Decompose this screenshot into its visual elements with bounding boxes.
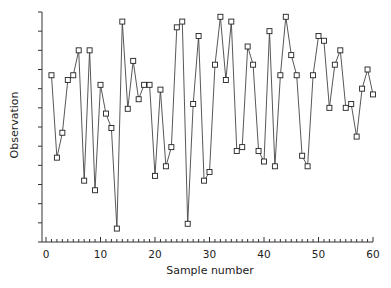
data-point-marker [354, 134, 359, 139]
data-point-marker [65, 78, 70, 83]
data-point-marker [234, 148, 239, 153]
data-point-marker [93, 188, 98, 193]
x-tick-label: 10 [94, 248, 107, 260]
data-point-marker [343, 105, 348, 110]
data-point-marker [300, 153, 305, 158]
chart: 0102030405060 Sample number Observation [0, 0, 391, 288]
data-point-marker [212, 62, 217, 67]
data-point-marker [294, 73, 299, 78]
x-tick-label: 60 [366, 248, 379, 260]
data-point-marker [272, 164, 277, 169]
data-point-marker [332, 62, 337, 67]
data-point-marker [349, 102, 354, 107]
data-point-marker [109, 125, 114, 130]
data-point-marker [120, 19, 125, 24]
data-point-marker [256, 148, 261, 153]
data-point-marker [223, 78, 228, 83]
data-point-marker [191, 102, 196, 107]
data-point-marker [169, 145, 174, 150]
data-point-marker [103, 111, 108, 116]
data-point-marker [262, 159, 267, 164]
data-point-marker [49, 73, 54, 78]
data-point-marker [142, 82, 147, 87]
data-point-marker [251, 62, 256, 67]
data-point-marker [360, 86, 365, 91]
x-tick-label: 20 [148, 248, 161, 260]
plot-area [49, 14, 376, 231]
data-point-marker [229, 19, 234, 24]
data-point-marker [147, 82, 152, 87]
data-point-marker [136, 97, 141, 102]
data-point-marker [60, 130, 65, 135]
data-point-marker [289, 53, 294, 58]
data-point-marker [305, 164, 310, 169]
data-point-marker [240, 145, 245, 150]
y-axis-title: Observation [8, 91, 21, 158]
data-point-marker [54, 155, 59, 160]
data-point-marker [371, 92, 376, 97]
data-point-marker [283, 14, 288, 19]
x-tick-label: 40 [257, 248, 270, 260]
data-point-marker [180, 19, 185, 24]
data-point-marker [327, 105, 332, 110]
data-point-marker [174, 25, 179, 30]
data-point-marker [245, 44, 250, 49]
data-point-marker [321, 38, 326, 43]
x-axis-title: Sample number [166, 264, 254, 277]
data-point-marker [218, 14, 223, 19]
data-point-marker [153, 173, 158, 178]
data-point-marker [185, 221, 190, 226]
data-point-marker [163, 164, 168, 169]
data-point-marker [125, 106, 130, 111]
data-point-marker [71, 73, 76, 78]
data-point-marker [311, 73, 316, 78]
data-point-marker [267, 29, 272, 34]
data-point-marker [131, 58, 136, 63]
data-line [52, 17, 374, 229]
data-point-marker [207, 170, 212, 175]
data-point-marker [98, 82, 103, 87]
data-point-marker [114, 226, 119, 231]
x-tick-label: 0 [43, 248, 50, 260]
data-point-marker [76, 48, 81, 53]
x-tick-label: 30 [203, 248, 216, 260]
data-point-marker [338, 48, 343, 53]
x-tick-label: 50 [312, 248, 325, 260]
data-point-marker [365, 67, 370, 72]
data-point-marker [158, 87, 163, 92]
data-point-marker [82, 178, 87, 183]
data-point-marker [202, 178, 207, 183]
data-point-marker [196, 33, 201, 38]
data-point-marker [316, 33, 321, 38]
data-point-marker [278, 73, 283, 78]
data-point-marker [87, 48, 92, 53]
